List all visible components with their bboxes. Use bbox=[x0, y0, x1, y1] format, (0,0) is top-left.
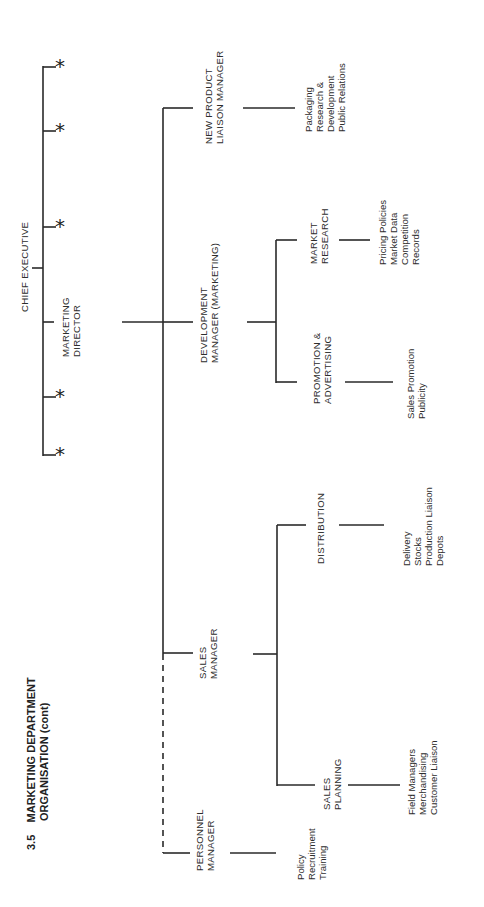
node-label-line: MARKET bbox=[308, 208, 319, 264]
duty-item: Pricing Policies bbox=[377, 200, 388, 265]
promotion-advertising-duties: Sales Promotion Publicity bbox=[405, 349, 427, 419]
node-label-line: ADVERTISING bbox=[322, 332, 333, 404]
section-title-text: MARKETING DEPARTMENT bbox=[25, 677, 37, 822]
distribution-duties: Delivery Stocks Production Liaison Depot… bbox=[401, 487, 445, 566]
section-number: 3.5 bbox=[25, 835, 37, 850]
duty-item: Stocks bbox=[412, 487, 423, 566]
node-label-line: DIRECTOR bbox=[71, 297, 82, 357]
duty-item: Production Liaison bbox=[423, 487, 434, 566]
duty-item: Records bbox=[410, 200, 421, 265]
other-report-asterisk-icon: * bbox=[55, 120, 65, 140]
sales-planning-node: SALES PLANNING bbox=[321, 759, 343, 810]
duty-item: Delivery bbox=[401, 487, 412, 566]
duty-item: Development bbox=[325, 63, 336, 132]
duty-item: Training bbox=[317, 828, 328, 880]
chief-executive-text: CHIEF EXECUTIVE bbox=[19, 222, 30, 312]
personnel-manager-node: PERSONNEL MANAGER bbox=[194, 809, 216, 871]
duty-item: Publicity bbox=[416, 349, 427, 419]
duty-item: Research & bbox=[314, 63, 325, 132]
other-report-asterisk-icon: * bbox=[55, 56, 65, 76]
duty-item: Customer Liaison bbox=[428, 740, 439, 815]
duty-item: Merchandising bbox=[417, 740, 428, 815]
development-manager-node: DEVELOPMENT MANAGER (MARKETING) bbox=[198, 243, 220, 363]
node-label-line: NEW PRODUCT bbox=[203, 50, 214, 144]
node-label-line: PLANNING bbox=[332, 759, 343, 810]
duty-item: Competition bbox=[399, 200, 410, 265]
node-label-line: MARKETING bbox=[60, 297, 71, 357]
duty-item: Market Data bbox=[388, 200, 399, 265]
node-label-line: MANAGER (MARKETING) bbox=[209, 243, 220, 363]
duty-item: Policy bbox=[295, 828, 306, 880]
section-title-line-2: ORGANISATION (cont) bbox=[38, 677, 51, 850]
node-label-line: DISTRIBUTION bbox=[315, 493, 326, 564]
section-title-line-1: 3.5 MARKETING DEPARTMENT bbox=[25, 677, 38, 850]
new-product-duties: Packaging Research & Development Public … bbox=[303, 63, 347, 132]
market-research-duties: Pricing Policies Market Data Competition… bbox=[377, 200, 421, 265]
sales-manager-node: SALES MANAGER bbox=[197, 628, 219, 679]
marketing-director-node: MARKETING DIRECTOR bbox=[60, 297, 82, 357]
duty-item: Recruitment bbox=[306, 828, 317, 880]
duty-item: Public Relations bbox=[336, 63, 347, 132]
sales-planning-duties: Field Managers Merchandising Customer Li… bbox=[406, 740, 439, 815]
new-product-liaison-manager-node: NEW PRODUCT LIAISON MANAGER bbox=[203, 50, 225, 144]
other-report-asterisk-icon: * bbox=[55, 216, 65, 236]
node-label-line: MANAGER bbox=[205, 809, 216, 871]
node-label-line: PROMOTION & bbox=[311, 332, 322, 404]
other-report-asterisk-icon: * bbox=[55, 444, 65, 464]
node-label-line: MANAGER bbox=[208, 628, 219, 679]
node-label-line: DEVELOPMENT bbox=[198, 243, 209, 363]
market-research-node: MARKET RESEARCH bbox=[308, 208, 330, 264]
personnel-duties: Policy Recruitment Training bbox=[295, 828, 328, 880]
other-report-asterisk-icon: * bbox=[55, 386, 65, 406]
duty-item: Field Managers bbox=[406, 740, 417, 815]
duty-item: Depots bbox=[434, 487, 445, 566]
node-label-line: RESEARCH bbox=[319, 208, 330, 264]
distribution-node: DISTRIBUTION bbox=[315, 493, 326, 564]
duty-item: Sales Promotion bbox=[405, 349, 416, 419]
promotion-advertising-node: PROMOTION & ADVERTISING bbox=[311, 332, 333, 404]
node-label-line: SALES bbox=[321, 759, 332, 810]
node-label-line: PERSONNEL bbox=[194, 809, 205, 871]
node-label-line: LIAISON MANAGER bbox=[214, 50, 225, 144]
node-label-line: SALES bbox=[197, 628, 208, 679]
chief-executive-label: CHIEF EXECUTIVE bbox=[19, 222, 30, 312]
duty-item: Packaging bbox=[303, 63, 314, 132]
section-title: 3.5 MARKETING DEPARTMENT ORGANISATION (c… bbox=[25, 677, 51, 850]
